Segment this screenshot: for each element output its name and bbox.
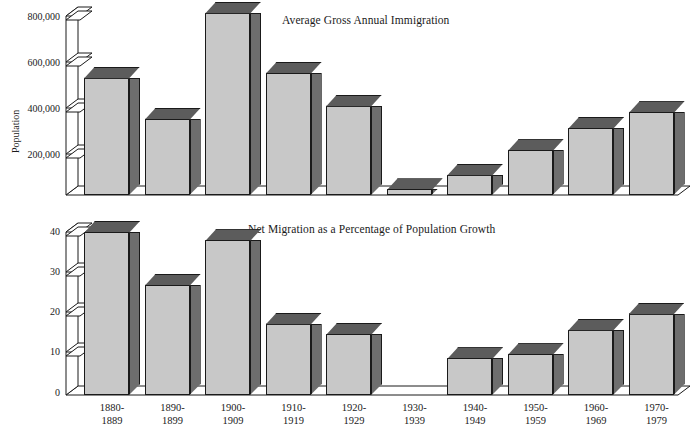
bar-bottom-1880-1889 xyxy=(84,221,140,395)
x-tick-line-2: 1979 xyxy=(627,414,687,427)
bar-front-face xyxy=(84,232,129,395)
x-tick-label-1890-1899: 1890-1899 xyxy=(143,401,203,427)
bar-bottom-1950-1959 xyxy=(508,343,564,395)
bar-side-face xyxy=(674,112,685,195)
bar-side-face xyxy=(371,106,382,196)
x-tick-line-1: 1950- xyxy=(506,401,566,414)
bar-side-face xyxy=(553,150,564,195)
bar-side-face xyxy=(492,358,503,395)
bar-front-face xyxy=(447,358,492,395)
bar-front-face xyxy=(266,73,311,195)
x-tick-label-1940-1949: 1940-1949 xyxy=(445,401,505,427)
x-tick-line-1: 1970- xyxy=(627,401,687,414)
bar-side-face xyxy=(492,175,503,195)
bar-front-face xyxy=(84,78,129,195)
bar-front-face xyxy=(205,13,250,195)
bar-side-face xyxy=(553,354,564,395)
x-tick-line-2: 1929 xyxy=(324,414,384,427)
bar-bottom-1970-1979 xyxy=(629,303,685,396)
x-tick-label-1910-1919: 1910-1919 xyxy=(264,401,324,427)
x-tick-line-1: 1910- xyxy=(264,401,324,414)
bar-front-face xyxy=(508,150,553,195)
chart-panel-net-migration: Net Migration as a Percentage of Populat… xyxy=(0,218,693,445)
bar-top-1940-1949 xyxy=(447,164,503,195)
bar-front-face xyxy=(326,106,371,196)
bar-bottom-1920-1929 xyxy=(326,323,382,395)
bar-side-face xyxy=(674,314,685,396)
bar-top-1970-1979 xyxy=(629,101,685,195)
bar-bottom-1910-1919 xyxy=(266,313,322,395)
bar-side-face xyxy=(190,119,201,195)
x-tick-line-1: 1930- xyxy=(385,401,445,414)
bar-top-1900-1909 xyxy=(205,2,261,195)
chart-panel-immigration: Average Gross Annual Immigration Populat… xyxy=(0,0,693,212)
bar-top-1960-1969 xyxy=(568,117,624,195)
bar-side-face xyxy=(250,240,261,395)
bar-side-face xyxy=(613,128,624,195)
x-tick-line-2: 1939 xyxy=(385,414,445,427)
bar-top-1950-1959 xyxy=(508,139,564,195)
bar-top-1890-1899 xyxy=(145,108,201,195)
x-tick-label-1920-1929: 1920-1929 xyxy=(324,401,384,427)
bar-bottom-1900-1909 xyxy=(205,229,261,395)
bar-front-face xyxy=(568,330,613,395)
x-tick-line-1: 1880- xyxy=(82,401,142,414)
bar-side-face xyxy=(129,232,140,395)
bar-top-1910-1919 xyxy=(266,62,322,195)
bar-front-face xyxy=(629,112,674,195)
bar-front-face xyxy=(568,128,613,195)
bar-front-face xyxy=(145,285,190,395)
bar-front-face xyxy=(205,240,250,395)
x-tick-label-1930-1939: 1930-1939 xyxy=(385,401,445,427)
bar-side-face xyxy=(311,324,322,395)
x-tick-label-1900-1909: 1900-1909 xyxy=(203,401,263,427)
x-tick-line-2: 1959 xyxy=(506,414,566,427)
x-tick-line-2: 1899 xyxy=(143,414,203,427)
bar-front-face xyxy=(145,119,190,195)
bar-top-1880-1889 xyxy=(84,67,140,195)
bar-front-face xyxy=(508,354,553,395)
bar-side-face xyxy=(190,285,201,395)
bar-bottom-1890-1899 xyxy=(145,274,201,395)
bar-front-face xyxy=(266,324,311,395)
bar-side-face xyxy=(371,334,382,395)
x-tick-line-1: 1960- xyxy=(566,401,626,414)
x-tick-line-1: 1920- xyxy=(324,401,384,414)
x-tick-line-2: 1949 xyxy=(445,414,505,427)
bar-side-face xyxy=(432,189,443,195)
bar-side-face xyxy=(311,73,322,195)
bar-side-face xyxy=(250,13,261,195)
bar-bottom-1960-1969 xyxy=(568,319,624,395)
immigration-figure: Average Gross Annual Immigration Populat… xyxy=(0,0,693,445)
x-tick-label-1970-1979: 1970-1979 xyxy=(627,401,687,427)
x-tick-label-1880-1889: 1880-1889 xyxy=(82,401,142,427)
x-tick-line-2: 1909 xyxy=(203,414,263,427)
x-tick-label-1960-1969: 1960-1969 xyxy=(566,401,626,427)
bar-front-face xyxy=(447,175,492,195)
x-tick-line-1: 1900- xyxy=(203,401,263,414)
bar-bottom-1940-1949 xyxy=(447,347,503,395)
bar-front-face xyxy=(629,314,674,396)
bar-side-face xyxy=(613,330,624,395)
x-tick-line-2: 1889 xyxy=(82,414,142,427)
x-tick-label-1950-1959: 1950-1959 xyxy=(506,401,566,427)
x-tick-line-1: 1890- xyxy=(143,401,203,414)
x-tick-line-1: 1940- xyxy=(445,401,505,414)
bar-top-1920-1929 xyxy=(326,95,382,196)
bar-side-face xyxy=(129,78,140,195)
bar-front-face xyxy=(326,334,371,395)
x-tick-line-2: 1919 xyxy=(264,414,324,427)
bar-top-1930-1939 xyxy=(387,178,443,195)
x-tick-line-2: 1969 xyxy=(566,414,626,427)
